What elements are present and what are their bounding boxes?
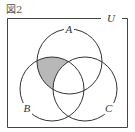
set-b-label: B	[24, 102, 31, 114]
universe-label: U	[107, 12, 116, 24]
set-c-label: C	[105, 102, 113, 114]
set-a-label: A	[65, 23, 73, 35]
venn-diagram: U A B C	[0, 0, 135, 132]
